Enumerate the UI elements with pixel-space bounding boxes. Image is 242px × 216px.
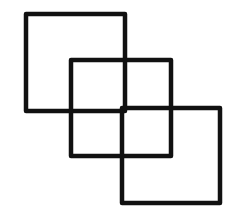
square-1 xyxy=(26,14,125,111)
overlapping-squares-diagram xyxy=(0,0,242,216)
